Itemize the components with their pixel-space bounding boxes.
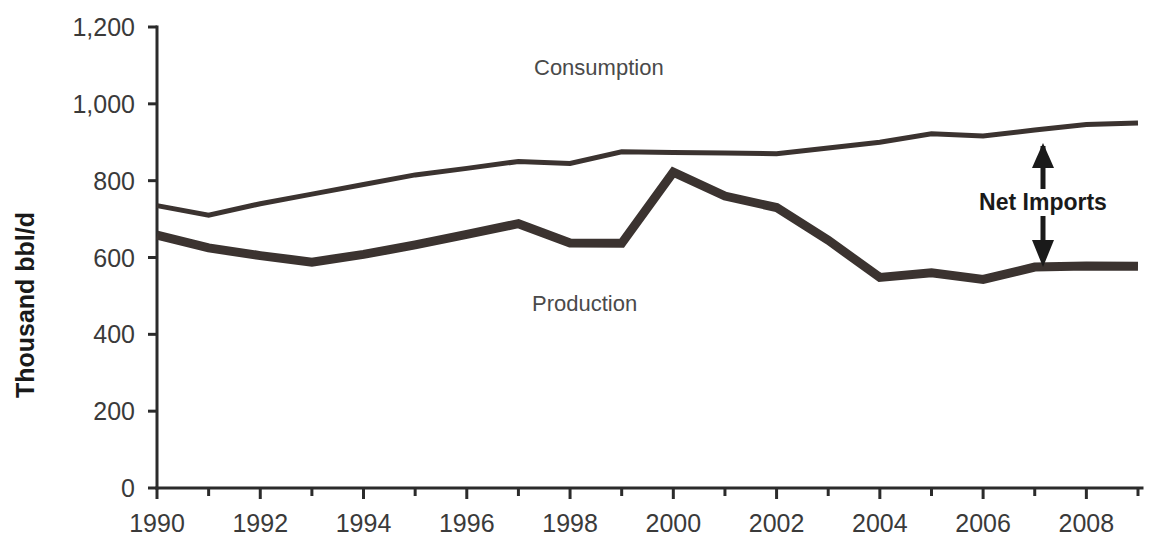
y-tick-label: 800 <box>93 167 135 195</box>
x-tick-label: 2004 <box>852 509 908 537</box>
chart-container: Thousand bbl/d 02004006008001,0001,200 1… <box>0 0 1164 558</box>
y-axis-tick-labels: 02004006008001,0001,200 <box>72 13 135 502</box>
x-tick-label: 1998 <box>542 509 598 537</box>
x-tick-label: 2000 <box>646 509 702 537</box>
net-imports-label: Net Imports <box>979 189 1107 215</box>
y-tick-label: 1,000 <box>72 90 135 118</box>
series-label-production: Production <box>532 291 637 316</box>
y-tick-label: 0 <box>121 474 135 502</box>
y-tick-label: 600 <box>93 244 135 272</box>
y-tick-label: 1,200 <box>72 13 135 41</box>
net-imports-up-arrow <box>1032 143 1054 189</box>
x-axis-tick-marks <box>157 488 1138 499</box>
net-imports-down-arrow <box>1032 216 1054 267</box>
y-axis-title: Thousand bbl/d <box>11 212 39 398</box>
line-chart: Thousand bbl/d 02004006008001,0001,200 1… <box>0 0 1164 558</box>
x-tick-label: 2006 <box>955 509 1011 537</box>
y-tick-label: 200 <box>93 397 135 425</box>
x-tick-label: 1996 <box>439 509 495 537</box>
series-label-consumption: Consumption <box>534 55 664 80</box>
x-tick-label: 1994 <box>336 509 392 537</box>
x-axis-tick-labels: 1990199219941996199820002002200420062008 <box>129 509 1114 537</box>
x-tick-label: 2002 <box>749 509 805 537</box>
x-tick-label: 2008 <box>1059 509 1115 537</box>
x-tick-label: 1990 <box>129 509 185 537</box>
y-tick-label: 400 <box>93 320 135 348</box>
x-tick-label: 1992 <box>232 509 288 537</box>
